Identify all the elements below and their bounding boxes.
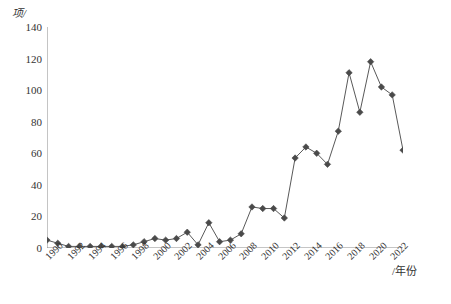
y-tick-label: 100 xyxy=(8,84,42,96)
y-tick-label: 0 xyxy=(8,242,42,254)
x-axis-tick-labels: 1990199219941996199820002002200420062008… xyxy=(47,252,403,298)
data-markers xyxy=(47,59,403,248)
data-point-marker xyxy=(47,237,50,243)
data-point-marker xyxy=(335,128,341,134)
y-axis-tick-labels: 020406080100120140 xyxy=(4,27,42,248)
data-point-marker xyxy=(238,231,244,237)
y-tick-label: 140 xyxy=(8,21,42,33)
line-chart-svg xyxy=(47,27,403,248)
y-tick-label: 80 xyxy=(8,116,42,128)
y-tick-label: 20 xyxy=(8,210,42,222)
y-axis-unit-label: 项/ xyxy=(12,4,26,20)
data-point-marker xyxy=(216,238,222,244)
data-point-marker xyxy=(206,220,212,226)
data-point-marker xyxy=(173,235,179,241)
axis-lines xyxy=(47,27,403,248)
data-line xyxy=(47,62,403,247)
y-tick-label: 40 xyxy=(8,179,42,191)
data-point-marker xyxy=(249,204,255,210)
y-tick-label: 60 xyxy=(8,147,42,159)
data-point-marker xyxy=(367,59,373,65)
data-point-marker xyxy=(346,70,352,76)
data-point-marker xyxy=(400,147,403,153)
data-point-marker xyxy=(260,205,266,211)
plot-area xyxy=(47,27,403,248)
data-point-marker xyxy=(357,109,363,115)
data-point-marker xyxy=(152,235,158,241)
figure-container: 项/ /年份 020406080100120140 19901992199419… xyxy=(0,0,451,304)
y-tick-label: 120 xyxy=(8,53,42,65)
